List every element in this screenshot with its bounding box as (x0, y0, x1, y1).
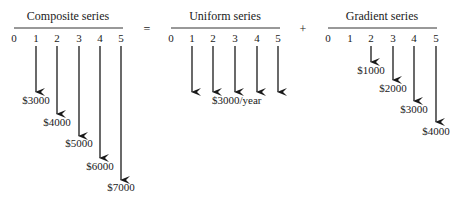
period-label: 3 (232, 32, 238, 44)
period-label: 5 (275, 32, 281, 44)
gradient-series-panel: Gradient series 0 1 2 3 4 5 $1000 $2000 … (325, 9, 450, 137)
period-label: 3 (390, 32, 396, 44)
panel-title: Uniform series (189, 9, 261, 23)
period-label: 1 (33, 32, 39, 44)
period-label: 1 (347, 32, 353, 44)
cash-flow-diagram: Composite series 0 1 2 3 4 5 $3000 $4000… (0, 0, 457, 198)
period-label: 0 (168, 32, 174, 44)
plus-sign: + (300, 22, 307, 36)
flow-amount: $4000 (422, 125, 450, 137)
uniform-series-panel: Uniform series 0 1 2 3 4 5 $3000/year (168, 9, 281, 106)
equals-sign: = (144, 22, 151, 36)
period-label: 4 (97, 32, 103, 44)
period-label: 2 (210, 32, 216, 44)
period-label: 2 (368, 32, 374, 44)
composite-series-panel: Composite series 0 1 2 3 4 5 $3000 $4000… (11, 9, 135, 193)
flow-amount: $1000 (357, 64, 385, 76)
uniform-amount: $3000/year (212, 94, 262, 106)
period-label: 3 (76, 32, 82, 44)
flow-amount: $2000 (379, 82, 407, 94)
panel-title: Composite series (27, 9, 110, 23)
period-labels: 0 1 2 3 4 5 (11, 32, 124, 44)
period-label: 1 (189, 32, 195, 44)
period-label: 5 (433, 32, 439, 44)
flow-amount: $7000 (107, 181, 135, 193)
flow-amount: $4000 (43, 116, 71, 128)
period-label: 2 (54, 32, 60, 44)
period-label: 5 (118, 32, 124, 44)
flow-amount: $3000 (22, 94, 50, 106)
period-label: 4 (254, 32, 260, 44)
period-labels: 0 1 2 3 4 5 (168, 32, 281, 44)
period-label: 4 (411, 32, 417, 44)
flow-amount: $5000 (65, 137, 93, 149)
period-label: 0 (11, 32, 17, 44)
panel-title: Gradient series (346, 9, 419, 23)
flow-amount: $3000 (400, 103, 428, 115)
flow-amount: $6000 (86, 160, 114, 172)
period-labels: 0 1 2 3 4 5 (325, 32, 439, 44)
period-label: 0 (325, 32, 331, 44)
